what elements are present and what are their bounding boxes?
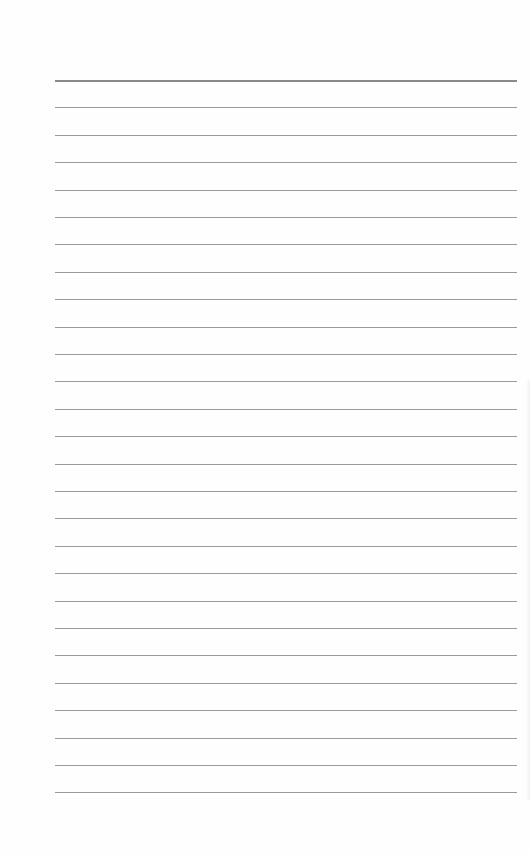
rule-line (55, 107, 517, 108)
rule-line (55, 327, 517, 328)
rule-line (55, 628, 517, 629)
rule-line (55, 546, 517, 547)
rule-line (55, 354, 517, 355)
header-rule-line (55, 80, 517, 82)
rule-line (55, 518, 517, 519)
rule-line (55, 655, 517, 656)
rule-line (55, 436, 517, 437)
rule-line (55, 491, 517, 492)
rule-line (55, 381, 517, 382)
rule-line (55, 135, 517, 136)
rule-line (55, 601, 517, 602)
rule-line (55, 710, 517, 711)
lined-paper (0, 0, 530, 854)
rule-line (55, 299, 517, 300)
rule-line (55, 464, 517, 465)
rule-line (55, 765, 517, 766)
rule-line (55, 190, 517, 191)
rule-line (55, 683, 517, 684)
rule-line (55, 217, 517, 218)
rule-line (55, 409, 517, 410)
rule-line (55, 573, 517, 574)
rule-line (55, 738, 517, 739)
rule-line (55, 162, 517, 163)
page-edge-shadow (526, 380, 530, 800)
rule-line (55, 792, 517, 793)
rule-line (55, 244, 517, 245)
rule-line (55, 272, 517, 273)
